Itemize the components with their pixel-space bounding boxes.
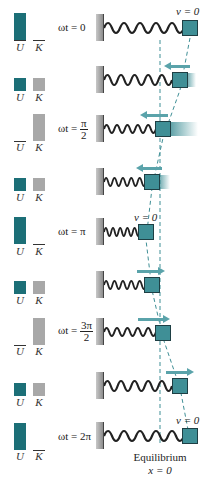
k-label: K bbox=[32, 345, 46, 357]
block bbox=[138, 224, 154, 240]
wall bbox=[96, 14, 103, 41]
phase-prefix: ωt = bbox=[58, 324, 77, 336]
velocity-arrow-left bbox=[142, 167, 162, 170]
motion-blur bbox=[170, 122, 198, 136]
wall bbox=[96, 318, 103, 345]
phase-label: ωt = π2 bbox=[58, 118, 88, 141]
spring bbox=[104, 70, 174, 90]
u-label: U bbox=[13, 91, 27, 103]
k-label: K bbox=[32, 41, 46, 53]
spring bbox=[104, 324, 156, 340]
wall bbox=[96, 218, 103, 245]
phase-fraction: π2 bbox=[80, 118, 88, 141]
spring bbox=[104, 18, 184, 38]
velocity-label: v = 0 bbox=[176, 414, 199, 426]
velocity-label: v = 0 bbox=[134, 211, 157, 223]
k-label: K bbox=[32, 396, 46, 408]
potential-energy-bar bbox=[14, 217, 26, 244]
wall bbox=[96, 115, 103, 142]
potential-energy-bar bbox=[14, 178, 26, 191]
phase-label: ωt = 0 bbox=[58, 21, 86, 33]
block bbox=[172, 378, 188, 394]
kinetic-energy-bar bbox=[33, 318, 45, 345]
u-label: U bbox=[13, 294, 27, 306]
wall bbox=[96, 168, 103, 195]
u-label: U bbox=[13, 450, 27, 462]
fraction-denominator: 2 bbox=[80, 332, 93, 343]
potential-energy-bar bbox=[14, 78, 26, 91]
u-label: U bbox=[13, 141, 27, 153]
k-label: K bbox=[32, 191, 46, 203]
velocity-arrow-left bbox=[146, 114, 168, 117]
block bbox=[172, 72, 188, 88]
kinetic-energy-bar bbox=[33, 178, 45, 191]
velocity-arrow-right bbox=[137, 270, 159, 273]
kinetic-energy-bar bbox=[33, 114, 45, 141]
spring bbox=[104, 277, 146, 293]
wall bbox=[96, 66, 103, 93]
wall bbox=[96, 372, 103, 399]
block bbox=[155, 121, 171, 137]
u-label: U bbox=[13, 396, 27, 408]
k-label: K bbox=[32, 91, 46, 103]
u-label: U bbox=[13, 245, 27, 257]
spring bbox=[104, 376, 174, 396]
block bbox=[144, 174, 160, 190]
velocity-label: v = 0 bbox=[176, 5, 199, 17]
spring bbox=[104, 174, 146, 190]
phase-prefix: ωt = bbox=[58, 122, 77, 134]
velocity-arrow-left bbox=[170, 65, 190, 68]
velocity-arrow-right bbox=[138, 318, 164, 321]
potential-energy-bar bbox=[14, 13, 26, 40]
block bbox=[182, 20, 198, 36]
phase-label: ωt = 2π bbox=[58, 430, 91, 442]
potential-energy-bar bbox=[14, 423, 26, 450]
spring bbox=[104, 121, 156, 137]
fraction-denominator: 2 bbox=[80, 130, 88, 141]
wall bbox=[96, 271, 103, 298]
phase-label: ωt = 3π2 bbox=[58, 320, 93, 343]
k-label: K bbox=[32, 141, 46, 153]
wall bbox=[96, 422, 103, 449]
block bbox=[144, 277, 160, 293]
spring bbox=[104, 224, 140, 240]
potential-energy-bar bbox=[14, 281, 26, 294]
kinetic-energy-bar bbox=[33, 281, 45, 294]
u-label: U bbox=[13, 345, 27, 357]
k-label: K bbox=[32, 245, 46, 257]
k-label: K bbox=[32, 294, 46, 306]
k-label: K bbox=[32, 450, 46, 462]
phase-fraction: 3π2 bbox=[80, 320, 93, 343]
spring bbox=[104, 426, 184, 446]
kinetic-energy-bar bbox=[33, 78, 45, 91]
phase-label: ωt = π bbox=[58, 225, 86, 237]
potential-energy-bar bbox=[14, 383, 26, 396]
caption-line-2: x = 0 bbox=[125, 464, 195, 477]
block bbox=[182, 428, 198, 444]
u-label: U bbox=[13, 41, 27, 53]
equilibrium-caption: Equilibrium x = 0 bbox=[125, 451, 195, 477]
kinetic-energy-bar bbox=[33, 383, 45, 396]
block bbox=[155, 325, 171, 341]
u-label: U bbox=[13, 191, 27, 203]
caption-line-1: Equilibrium bbox=[125, 451, 195, 464]
velocity-arrow-right bbox=[166, 371, 188, 374]
